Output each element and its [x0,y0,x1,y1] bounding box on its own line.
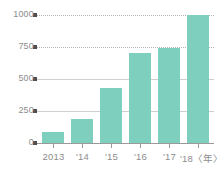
bar-2015 [100,88,122,143]
x-axis-label-2013: 2013 [37,151,70,162]
bar-2017 [158,48,180,143]
x-axis-label-2014: '14 [69,151,96,162]
x-axis-ticks [37,144,214,149]
y-axis-label-500: 500 [18,73,34,83]
y-axis-label-750: 750 [18,41,34,51]
x-tick-2018 [198,144,199,148]
x-tick-2016 [140,144,141,148]
y-axis-label-1000: 1000 [13,9,34,19]
bar-slot-2018 [187,15,209,143]
bar-2013 [42,132,64,143]
x-axis-label-2016: '16 [127,151,154,162]
bar-slot-2014 [71,15,93,143]
x-axis-label-2017: '17 [156,151,183,162]
x-axis-labels: 2013 '14 '15 '16 '17 '18〈年〉 [37,151,223,167]
bar-2016 [129,53,151,143]
x-tick-2017 [169,144,170,148]
bar-slot-2015 [100,15,122,143]
x-axis-label-2015: '15 [98,151,125,162]
bar-series [37,15,214,143]
x-tick-2013 [53,144,54,148]
bar-slot-2013 [42,15,64,143]
y-axis-label-250: 250 [18,105,34,115]
x-tick-2015 [111,144,112,148]
bar-2014 [71,119,93,143]
x-axis-label-2018: '18〈年〉 [180,151,223,165]
bar-2018 [187,15,209,143]
bar-chart: 1000 750 500 250 0 [0,0,223,171]
bar-slot-2016 [129,15,151,143]
x-tick-2014 [82,144,83,148]
y-axis-label-0: 0 [29,137,34,147]
bar-slot-2017 [158,15,180,143]
